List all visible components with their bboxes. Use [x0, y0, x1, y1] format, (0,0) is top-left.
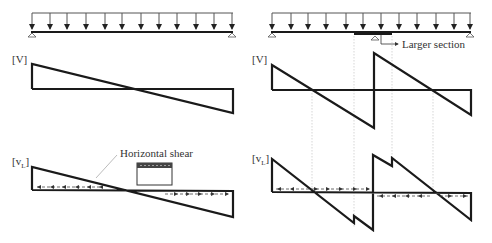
right-vl-diagram — [272, 155, 471, 230]
right-shear-diagram — [272, 53, 471, 128]
larger-section — [354, 31, 392, 35]
right-right-support-icon — [466, 33, 474, 37]
shear-diagrams-figure: [V] [vL] Horizontal shear — [0, 0, 492, 243]
right-shear-label: [V] — [252, 53, 267, 65]
left-shear-diagram — [32, 64, 233, 113]
left-vl-label: [vL] — [12, 155, 29, 170]
right-beam-load — [272, 13, 471, 29]
cross-section-inset — [137, 163, 172, 185]
annotation-leader-line — [96, 155, 117, 178]
left-beam-load — [32, 13, 233, 29]
middle-support-icon — [371, 36, 379, 40]
left-shear-label: [V] — [12, 53, 27, 65]
left-vl-diagram — [32, 167, 233, 217]
right-vl-label: [vL] — [252, 152, 269, 167]
horizontal-shear-annotation: Horizontal shear — [120, 147, 193, 159]
left-support-pin-icon — [28, 33, 36, 37]
larger-section-annotation: Larger section — [402, 38, 466, 50]
larger-section-pointer — [381, 35, 398, 44]
right-support-roller-icon — [228, 33, 236, 37]
right-left-support-icon — [268, 33, 276, 37]
